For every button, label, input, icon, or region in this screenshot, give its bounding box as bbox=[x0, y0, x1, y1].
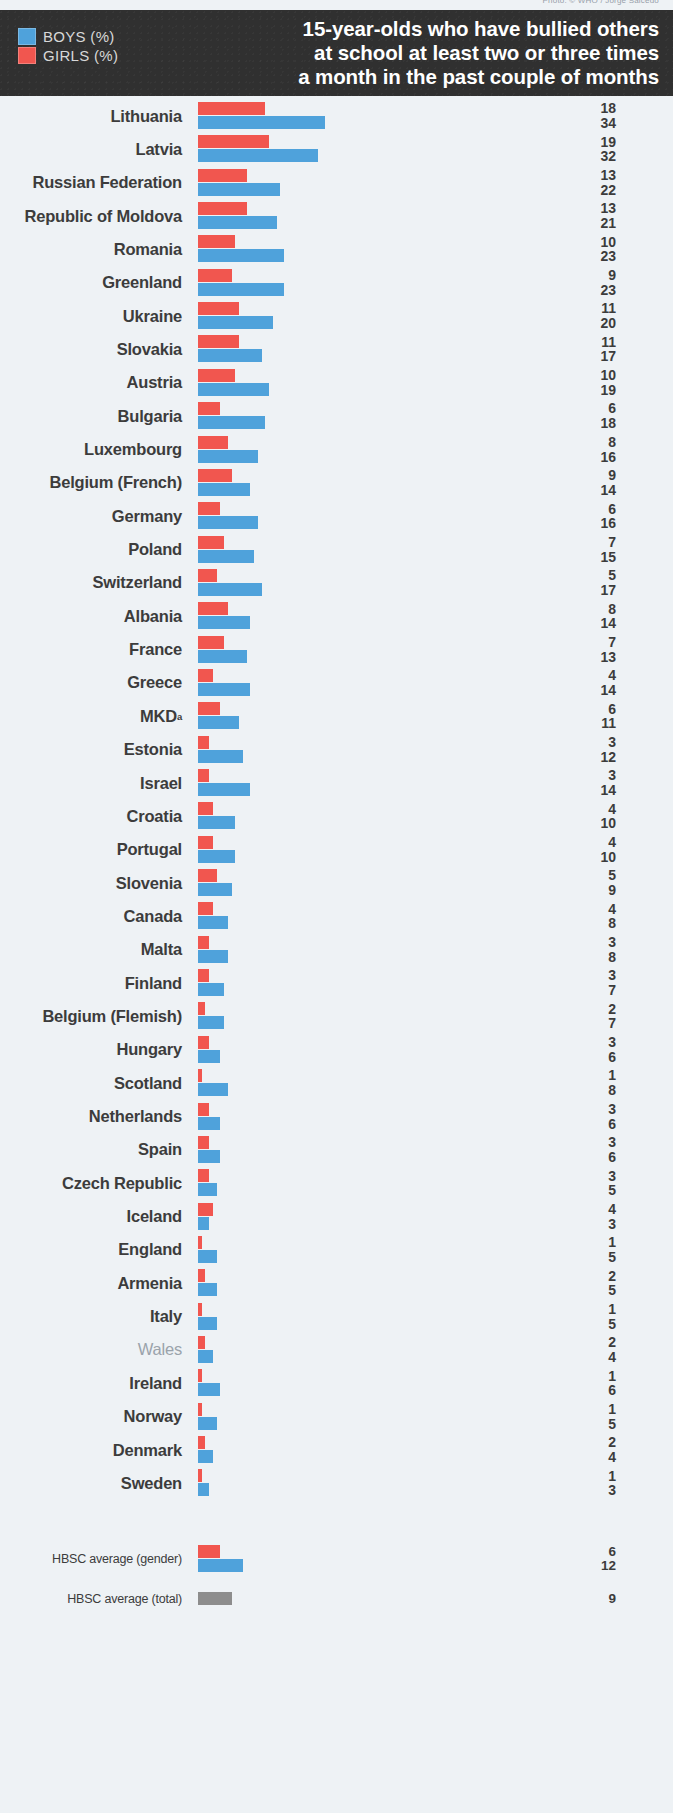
bar-boys bbox=[198, 1383, 220, 1396]
row-values: 410 bbox=[556, 835, 616, 865]
row-country-label: Republic of Moldova bbox=[0, 201, 182, 231]
bar-boys bbox=[198, 483, 250, 496]
bar-girls bbox=[198, 302, 239, 315]
value-boys: 4 bbox=[608, 1350, 616, 1365]
bar-boys bbox=[198, 383, 269, 396]
table-row: Armenia25 bbox=[0, 1268, 673, 1298]
footnote-marker: a bbox=[177, 711, 182, 722]
bar-boys bbox=[198, 1250, 217, 1263]
value-boys: 7 bbox=[608, 1016, 616, 1031]
bar-girls bbox=[198, 736, 209, 749]
row-country-label: Luxembourg bbox=[0, 435, 182, 465]
value-boys: 3 bbox=[608, 1483, 616, 1498]
row-country-label: Greenland bbox=[0, 268, 182, 298]
table-row: Albania814 bbox=[0, 601, 673, 631]
bar-girls bbox=[198, 802, 213, 815]
table-row: Austria1019 bbox=[0, 368, 673, 398]
bar-girls bbox=[198, 269, 232, 282]
bar-boys bbox=[198, 783, 250, 796]
row-country-label: HBSC average (gender) bbox=[0, 1544, 182, 1574]
bar-boys bbox=[198, 516, 258, 529]
row-bars bbox=[198, 569, 538, 597]
bar-boys bbox=[198, 349, 262, 362]
row-bars bbox=[198, 135, 538, 163]
value-boys: 6 bbox=[608, 1050, 616, 1065]
bar-girls bbox=[198, 436, 228, 449]
bar-girls bbox=[198, 369, 235, 382]
table-row: Latvia1932 bbox=[0, 134, 673, 164]
bar-total bbox=[198, 1592, 232, 1605]
value-boys: 5 bbox=[608, 1250, 616, 1265]
table-row: Norway15 bbox=[0, 1402, 673, 1432]
value-girls: 1 bbox=[608, 1235, 616, 1250]
bar-girls bbox=[198, 1269, 205, 1282]
row-country-label: Albania bbox=[0, 601, 182, 631]
bar-boys bbox=[198, 683, 250, 696]
table-row: Wales24 bbox=[0, 1335, 673, 1365]
row-country-label: Finland bbox=[0, 968, 182, 998]
table-row: Netherlands36 bbox=[0, 1102, 673, 1132]
row-country-label: Denmark bbox=[0, 1435, 182, 1465]
table-row: Sweden13 bbox=[0, 1468, 673, 1498]
bar-girls bbox=[198, 1036, 209, 1049]
row-country-label: Croatia bbox=[0, 801, 182, 831]
value-boys: 19 bbox=[600, 383, 616, 398]
row-country-label: Poland bbox=[0, 535, 182, 565]
chart-title-line: at school at least two or three times bbox=[187, 41, 659, 65]
row-values: 13 bbox=[556, 1468, 616, 1498]
row-country-label: Lithuania bbox=[0, 101, 182, 131]
bar-girls bbox=[198, 769, 209, 782]
value-girls: 13 bbox=[600, 168, 616, 183]
row-country-label: Latvia bbox=[0, 134, 182, 164]
row-country-label: Romania bbox=[0, 234, 182, 264]
row-values: 15 bbox=[556, 1302, 616, 1332]
value-girls: 8 bbox=[608, 435, 616, 450]
row-values: 410 bbox=[556, 801, 616, 831]
bar-boys bbox=[198, 1417, 217, 1430]
row-bars bbox=[198, 769, 538, 797]
row-country-label: Austria bbox=[0, 368, 182, 398]
value-girls: 11 bbox=[601, 301, 616, 316]
value-girls: 19 bbox=[600, 135, 616, 150]
row-bars bbox=[198, 1585, 538, 1613]
table-row: Czech Republic35 bbox=[0, 1168, 673, 1198]
value-girls: 3 bbox=[608, 735, 616, 750]
bar-boys bbox=[198, 983, 224, 996]
bar-boys bbox=[198, 816, 235, 829]
row-values: 36 bbox=[556, 1135, 616, 1165]
value-boys: 16 bbox=[600, 450, 616, 465]
row-country-label: Estonia bbox=[0, 735, 182, 765]
row-bars bbox=[198, 1002, 538, 1030]
table-row: Finland37 bbox=[0, 968, 673, 998]
value-boys: 17 bbox=[600, 349, 616, 364]
value-boys: 8 bbox=[608, 1083, 616, 1098]
table-row: Slovenia59 bbox=[0, 868, 673, 898]
bar-boys bbox=[198, 450, 258, 463]
row-bars bbox=[198, 869, 538, 897]
bar-boys bbox=[198, 616, 250, 629]
value-girls: 4 bbox=[608, 802, 616, 817]
value-girls: 4 bbox=[608, 1202, 616, 1217]
row-country-label: Russian Federation bbox=[0, 168, 182, 198]
value-boys: 6 bbox=[608, 1117, 616, 1132]
value-boys: 9 bbox=[608, 883, 616, 898]
table-row: Israel314 bbox=[0, 768, 673, 798]
row-bars bbox=[198, 669, 538, 697]
row-values: 414 bbox=[556, 668, 616, 698]
row-country-label: Norway bbox=[0, 1402, 182, 1432]
row-bars bbox=[198, 1269, 538, 1297]
bar-girls bbox=[198, 536, 224, 549]
table-row: Luxembourg816 bbox=[0, 435, 673, 465]
bar-boys bbox=[198, 850, 235, 863]
legend-swatch-boys-icon bbox=[18, 28, 36, 45]
bar-girls bbox=[198, 836, 213, 849]
row-bars bbox=[198, 369, 538, 397]
table-row: Estonia312 bbox=[0, 735, 673, 765]
row-values: 25 bbox=[556, 1268, 616, 1298]
row-values: 15 bbox=[556, 1402, 616, 1432]
row-values: 1932 bbox=[556, 134, 616, 164]
row-values: 1117 bbox=[556, 334, 616, 364]
row-country-label: HBSC average (total) bbox=[0, 1584, 182, 1614]
value-girls: 5 bbox=[608, 568, 616, 583]
row-bars bbox=[198, 1369, 538, 1397]
